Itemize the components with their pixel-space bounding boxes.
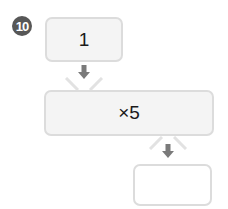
down-arrow-icon [162, 144, 174, 160]
operation-box: ×5 [44, 90, 214, 136]
start-value: 1 [79, 29, 90, 51]
problem-number-badge: 10 [12, 16, 32, 36]
result-answer-box[interactable] [133, 164, 212, 206]
operation-value: ×5 [118, 102, 140, 124]
funnel-chevron-icon [64, 77, 104, 91]
start-value-box: 1 [45, 17, 123, 62]
